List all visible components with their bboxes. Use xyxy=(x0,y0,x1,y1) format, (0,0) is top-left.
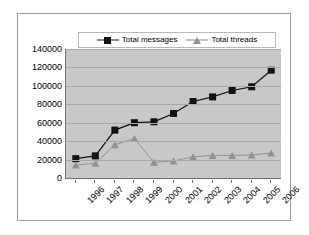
y-tick-label: 120000 xyxy=(32,63,62,72)
x-tick-label: 1998 xyxy=(125,185,146,206)
data-point-marker xyxy=(111,127,118,134)
y-axis-labels: 020000400006000080000100000120000140000 xyxy=(18,14,62,222)
gridline xyxy=(66,141,281,142)
y-tick-label: 60000 xyxy=(37,119,62,128)
x-tick xyxy=(153,180,154,183)
data-point-marker xyxy=(111,141,119,148)
y-tick-label: 20000 xyxy=(37,156,62,165)
y-tick-label: 140000 xyxy=(32,45,62,54)
x-tick xyxy=(75,180,76,183)
x-tick-label: 1999 xyxy=(144,185,165,206)
data-point-marker xyxy=(229,87,236,94)
x-tick xyxy=(192,180,193,183)
data-point-marker xyxy=(209,93,216,100)
x-tick-label: 2000 xyxy=(164,185,185,206)
x-tick-label: 2006 xyxy=(281,185,302,206)
x-tick xyxy=(212,180,213,183)
x-tick-label: 2004 xyxy=(242,185,263,206)
x-tick xyxy=(251,180,252,183)
x-tick-label: 2005 xyxy=(262,185,283,206)
gridline xyxy=(66,123,281,124)
chart-frame: 020000400006000080000100000120000140000 … xyxy=(17,13,291,221)
plot-area xyxy=(65,49,281,179)
y-tick-label: 0 xyxy=(57,174,62,183)
gridline xyxy=(66,104,281,105)
x-tick xyxy=(173,180,174,183)
legend-item-total-messages: Total messages xyxy=(97,36,178,45)
legend-label-total-messages: Total messages xyxy=(122,36,178,44)
gridline xyxy=(66,67,281,68)
legend-line-icon xyxy=(97,36,119,45)
x-axis-labels: 1996199719981999200020012002200320042005… xyxy=(65,180,281,222)
x-tick xyxy=(231,180,232,183)
triangle-marker-icon xyxy=(193,37,201,44)
legend-item-total-threads: Total threads xyxy=(186,36,257,45)
y-tick-label: 100000 xyxy=(32,82,62,91)
x-tick-label: 2003 xyxy=(222,185,243,206)
x-tick xyxy=(133,180,134,183)
square-marker-icon xyxy=(104,37,111,44)
gridline xyxy=(66,86,281,87)
x-tick xyxy=(270,180,271,183)
data-point-marker xyxy=(92,152,99,159)
x-tick xyxy=(114,180,115,183)
legend-label-total-threads: Total threads xyxy=(211,36,257,44)
gridline xyxy=(66,49,281,50)
y-tick-label: 40000 xyxy=(37,137,62,146)
x-tick-label: 2001 xyxy=(183,185,204,206)
x-tick-label: 1997 xyxy=(105,185,126,206)
x-tick-label: 2002 xyxy=(203,185,224,206)
legend-line-icon xyxy=(186,36,208,45)
x-tick-label: 1996 xyxy=(86,185,107,206)
gridline xyxy=(66,160,281,161)
y-tick-label: 80000 xyxy=(37,100,62,109)
chart-legend: Total messages Total threads xyxy=(78,32,276,48)
x-tick xyxy=(94,180,95,183)
data-point-marker xyxy=(170,110,177,117)
